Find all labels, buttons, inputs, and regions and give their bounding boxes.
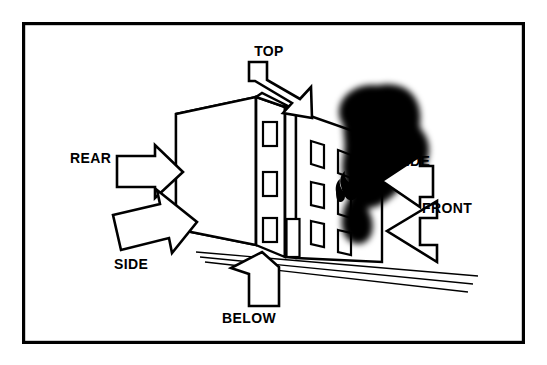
label-side-left: SIDE bbox=[114, 256, 148, 272]
window bbox=[263, 122, 277, 146]
size-up-diagram-canvas: TOP REAR SIDE BELOW SIDE FRONT bbox=[0, 0, 547, 365]
window bbox=[311, 182, 324, 208]
label-rear: REAR bbox=[70, 150, 111, 166]
label-top: TOP bbox=[254, 43, 284, 59]
entry-door bbox=[287, 219, 300, 257]
label-side-right: SIDE bbox=[396, 153, 430, 169]
label-below: BELOW bbox=[222, 310, 276, 326]
window bbox=[311, 141, 324, 168]
diagram-root: TOP REAR SIDE BELOW SIDE FRONT bbox=[0, 0, 547, 365]
window bbox=[311, 221, 324, 247]
window bbox=[263, 218, 277, 242]
label-front: FRONT bbox=[422, 200, 472, 216]
front-wall-windows bbox=[263, 122, 277, 242]
window bbox=[263, 172, 277, 196]
